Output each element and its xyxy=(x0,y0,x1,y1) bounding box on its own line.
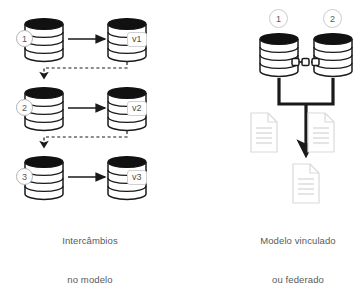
left-panel-caption: Intercâmbios no modelo xyxy=(10,208,170,287)
linked-model-badge-1-label: 1 xyxy=(276,14,281,24)
version-label-v2: v2 xyxy=(127,101,147,116)
database-cylinder-icon xyxy=(314,34,352,77)
linked-model-badge-2-label: 2 xyxy=(330,14,335,24)
version-label-v3: v3 xyxy=(127,170,147,185)
dashed-feedback-arrow-icon xyxy=(44,62,127,76)
right-panel-group xyxy=(251,34,352,203)
document-icon xyxy=(293,164,319,203)
version-label-v1: v1 xyxy=(127,32,147,47)
row-1-source-badge-label: 1 xyxy=(22,34,27,44)
database-cylinder-icon xyxy=(260,34,298,77)
row-3-source-badge: 3 xyxy=(16,168,33,185)
left-caption-line-2: no modelo xyxy=(10,273,170,286)
document-icon xyxy=(251,113,277,152)
row-2-source-badge: 2 xyxy=(16,99,33,116)
right-panel-caption: Modelo vinculado ou federado xyxy=(238,208,358,287)
left-caption-line-1: Intercâmbios xyxy=(10,234,170,247)
dashed-feedback-arrow-icon xyxy=(44,131,127,145)
linked-model-badge-1: 1 xyxy=(269,9,288,28)
right-caption-line-1: Modelo vinculado xyxy=(238,234,358,247)
row-1-source-badge: 1 xyxy=(16,30,33,47)
row-3-source-badge-label: 3 xyxy=(22,172,27,182)
right-caption-line-2: ou federado xyxy=(238,273,358,286)
linked-model-badge-2: 2 xyxy=(323,9,342,28)
row-2-source-badge-label: 2 xyxy=(22,103,27,113)
chain-link-icon xyxy=(292,59,319,66)
document-icon xyxy=(308,113,334,152)
